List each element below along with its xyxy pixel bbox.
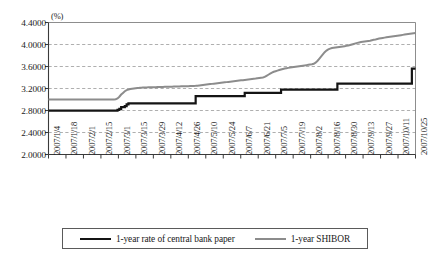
x-axis-tick-label: 2007/4/26 bbox=[192, 122, 202, 155]
y-axis-tick-label: 2.4000 bbox=[21, 128, 46, 138]
series-line-shibor bbox=[49, 33, 416, 100]
x-axis-tick-label: 2007/7/19 bbox=[297, 122, 307, 155]
x-axis-tick-label: 2007/1/4 bbox=[52, 126, 62, 155]
x-axis-tick-label: 2007/1/18 bbox=[69, 122, 79, 155]
x-axis-tick-label: 2007/3/29 bbox=[157, 122, 167, 155]
x-axis-tick-label: 2007/9/13 bbox=[366, 122, 376, 155]
legend-line-swatch-shibor bbox=[255, 238, 286, 240]
legend-item-central-bank-paper: 1-year rate of central bank paper bbox=[80, 234, 235, 244]
x-axis-tick-label: 2007/10/25 bbox=[419, 118, 428, 155]
x-axis-tick-label: 2007/2/1 bbox=[87, 126, 97, 155]
y-axis-unit-label: (%) bbox=[51, 11, 63, 21]
legend-item-shibor: 1-year SHIBOR bbox=[255, 234, 350, 244]
y-axis-tick-label: 4.4000 bbox=[21, 18, 46, 28]
chart-legend: 1-year rate of central bank paper 1-year… bbox=[62, 228, 368, 249]
x-axis-tick-label: 2007/4/12 bbox=[174, 122, 184, 155]
x-axis-tick-label: 2007/3/15 bbox=[139, 122, 149, 155]
y-axis-tick-label: 3.2000 bbox=[21, 84, 46, 94]
legend-label-shibor: 1-year SHIBOR bbox=[291, 234, 350, 244]
x-axis-tick-label: 2007/7/5 bbox=[279, 126, 289, 155]
x-axis-tick-labels: 2007/1/42007/1/182007/2/12007/2/152007/3… bbox=[0, 155, 428, 225]
y-axis-tick-label: 3.6000 bbox=[21, 62, 46, 72]
y-axis-tick-label: 4.0000 bbox=[21, 40, 46, 50]
x-axis-tick-label: 2007/5/24 bbox=[227, 122, 237, 155]
x-axis-tick-label: 2007/8/30 bbox=[349, 122, 359, 155]
x-axis-tick-label: 2007/8/16 bbox=[332, 122, 342, 155]
x-axis-tick-label: 2007/6/7 bbox=[244, 126, 254, 155]
y-axis-tick-label: 2.8000 bbox=[21, 106, 46, 116]
interest-rate-line-chart: (%) 4.40004.00003.60003.20002.80002.4000… bbox=[0, 0, 428, 259]
x-axis-tick-label: 2007/6/21 bbox=[262, 122, 272, 155]
x-axis-tick-label: 2007/2/15 bbox=[104, 122, 114, 155]
x-axis-tick-label: 2007/5/10 bbox=[209, 122, 219, 155]
series-line-central-bank-paper bbox=[49, 69, 416, 111]
x-axis-tick-label: 2007/9/27 bbox=[384, 122, 394, 155]
legend-line-swatch-cbp bbox=[80, 238, 111, 240]
x-axis-tick-label: 2007/10/11 bbox=[401, 118, 411, 155]
legend-label-cbp: 1-year rate of central bank paper bbox=[116, 234, 235, 244]
x-axis-tick-label: 2007/8/2 bbox=[314, 126, 324, 155]
x-axis-tick-label: 2007/3/1 bbox=[122, 126, 132, 155]
